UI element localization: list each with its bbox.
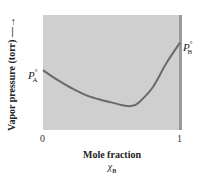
x-axis-label: Mole fraction xyxy=(43,149,181,160)
x-tick-0: 0 xyxy=(40,133,45,144)
pb-label: P°B xyxy=(183,40,192,56)
pb-sup: ° xyxy=(190,40,193,48)
plot-right-edge xyxy=(179,15,182,130)
pa-label: P°A xyxy=(28,68,38,84)
x-axis-symbol: χB xyxy=(43,161,181,174)
chi-subscript: B xyxy=(112,168,116,174)
pa-sub: A xyxy=(33,76,38,84)
pa-sup: ° xyxy=(35,68,38,76)
y-axis-label: Vapor pressure (torr) —→ xyxy=(4,15,18,133)
y-axis-label-text: Vapor pressure (torr) —→ xyxy=(6,17,17,131)
x-tick-1: 1 xyxy=(177,133,182,144)
pb-sub: B xyxy=(188,48,193,56)
